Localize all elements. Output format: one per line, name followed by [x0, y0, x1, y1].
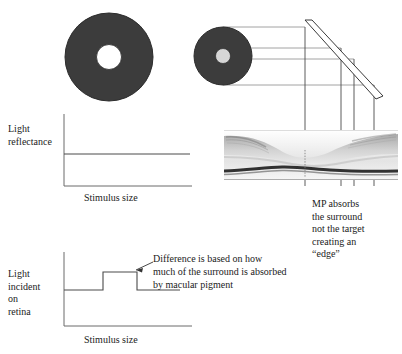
lens-bar — [305, 20, 383, 99]
target-on-surround-disc — [65, 13, 153, 101]
mp-absorption-note: MP absorbs the surround not the target c… — [312, 198, 402, 261]
difference-note-arrow — [136, 262, 153, 273]
target-center-circle-small — [216, 49, 231, 64]
difference-explanation-note: Difference is based on how much of the s… — [153, 252, 303, 292]
incident-x-axis-label: Stimulus size — [84, 334, 138, 345]
incident-y-axis-label: Light incident on retina — [8, 268, 68, 318]
figure-macular-pigment-edge: Light reflectance Stimulus size Light in… — [0, 0, 402, 354]
reflectance-x-axis-label: Stimulus size — [84, 192, 138, 203]
chart-light-reflectance — [64, 114, 192, 186]
target-center-circle — [97, 45, 122, 70]
oct-retina-cross-section — [224, 124, 398, 185]
reflectance-y-axis-label: Light reflectance — [8, 123, 70, 148]
